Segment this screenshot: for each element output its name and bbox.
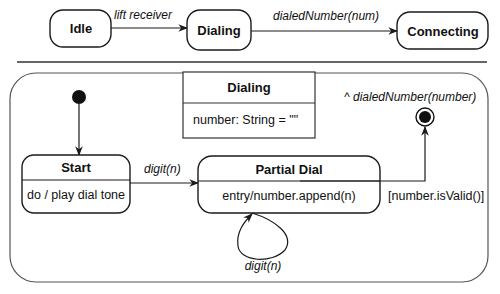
self-loop-label-digit: digit(n) xyxy=(245,260,282,272)
state-partial-dial-activity: entry/number.append(n) xyxy=(222,190,355,203)
state-partial-dial-name: Partial Dial xyxy=(255,163,322,176)
transition-label-dialed-number: dialedNumber(num) xyxy=(273,10,379,22)
state-connecting-label: Connecting xyxy=(407,25,479,38)
final-state-dot xyxy=(419,111,431,123)
class-box-name: Dialing xyxy=(227,81,270,94)
guard-label-is-valid: [number.isValid()] xyxy=(388,190,484,203)
diagram-canvas xyxy=(0,0,500,294)
state-idle-label: Idle xyxy=(70,22,92,35)
class-box-attribute: number: String = "" xyxy=(193,114,298,127)
action-label-dialed-number: ^ dialedNumber(number) xyxy=(344,91,476,103)
transition-label-digit: digit(n) xyxy=(144,163,181,175)
initial-state-dot xyxy=(72,90,86,104)
transition-label-lift-receiver: lift receiver xyxy=(114,9,172,21)
transition-self-loop-digit xyxy=(238,213,288,259)
state-start-activity: do / play dial tone xyxy=(27,189,125,202)
state-start-name: Start xyxy=(61,161,91,174)
state-dialing-label: Dialing xyxy=(197,24,240,37)
